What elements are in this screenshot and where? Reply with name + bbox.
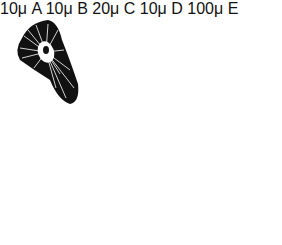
- panel-a-particle: [17, 20, 78, 104]
- figure-canvas: [0, 0, 282, 245]
